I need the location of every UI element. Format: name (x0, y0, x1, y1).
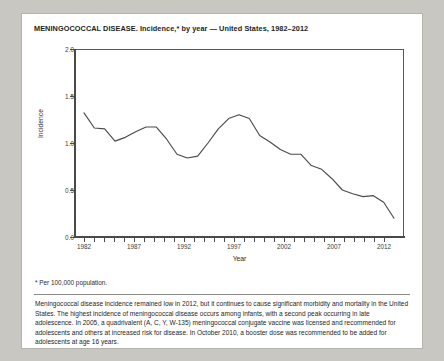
y-tick-label-1-5: 1.5 (40, 93, 74, 100)
x-tick-1996 (224, 238, 225, 242)
x-tick-2011 (374, 238, 375, 242)
y-tick-label-0-5: 0.5 (40, 187, 74, 194)
x-tick-1989 (154, 238, 155, 242)
y-axis-title: Incidence (37, 94, 44, 154)
x-tick-1992 (184, 238, 185, 242)
x-tick-2010 (364, 238, 365, 242)
x-tick-2001 (274, 238, 275, 242)
footnote: * Per 100,000 population. (35, 279, 107, 286)
x-tick-label-1997: 1997 (219, 243, 249, 250)
x-tick-2012 (384, 238, 385, 242)
x-tick-1985 (114, 238, 115, 242)
x-tick-2007 (334, 238, 335, 242)
x-tick-2009 (354, 238, 355, 242)
y-tick-label-1-0: 1.0 (40, 140, 74, 147)
x-tick-1982 (84, 238, 85, 242)
x-tick-2003 (294, 238, 295, 242)
x-tick-1986 (124, 238, 125, 242)
y-tick-label-2-0: 2.0 (40, 46, 74, 53)
x-tick-1984 (104, 238, 105, 242)
figure-sheet: MENINGOCOCCAL DISEASE. Incidence,* by ye… (22, 14, 422, 348)
x-tick-2006 (324, 238, 325, 242)
divider (34, 294, 410, 295)
x-tick-1983 (94, 238, 95, 242)
x-tick-label-1982: 1982 (69, 243, 99, 250)
x-tick-1991 (174, 238, 175, 242)
x-tick-2005 (314, 238, 315, 242)
x-tick-1995 (214, 238, 215, 242)
figure-description: Meningococcal disease incidence remained… (35, 299, 410, 347)
x-tick-2000 (264, 238, 265, 242)
x-tick-label-2007: 2007 (319, 243, 349, 250)
x-tick-1987 (134, 238, 135, 242)
x-tick-1990 (164, 238, 165, 242)
x-tick-label-2012: 2012 (369, 243, 399, 250)
y-tick-label-0-0: 0.0 (40, 234, 74, 241)
page-title: MENINGOCOCCAL DISEASE. Incidence,* by ye… (34, 24, 414, 33)
x-axis-title: Year (74, 255, 405, 262)
x-tick-2008 (344, 238, 345, 242)
screenshot-page: MENINGOCOCCAL DISEASE. Incidence,* by ye… (0, 0, 444, 361)
x-tick-label-1992: 1992 (169, 243, 199, 250)
x-tick-2004 (304, 238, 305, 242)
x-tick-label-2002: 2002 (269, 243, 299, 250)
x-tick-1997 (234, 238, 235, 242)
x-tick-1994 (204, 238, 205, 242)
x-tick-1998 (244, 238, 245, 242)
x-tick-2002 (284, 238, 285, 242)
x-tick-1999 (254, 238, 255, 242)
x-tick-1988 (144, 238, 145, 242)
x-tick-label-1987: 1987 (119, 243, 149, 250)
incidence-line-series (74, 49, 404, 238)
chart-plot-area: 2.0 1.5 1.0 0.5 0.0 Incidence (30, 36, 414, 276)
x-tick-1993 (194, 238, 195, 242)
